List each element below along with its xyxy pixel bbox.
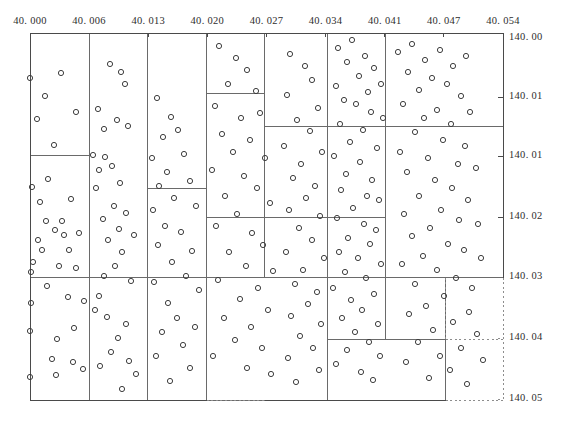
data-point	[337, 121, 342, 126]
data-point	[344, 59, 349, 64]
data-point	[34, 116, 39, 121]
data-point	[181, 151, 186, 156]
data-point	[219, 131, 224, 136]
data-point	[378, 261, 383, 266]
data-point	[267, 200, 272, 205]
data-point	[478, 255, 483, 260]
data-point	[335, 45, 340, 50]
partition-cell-17	[90, 278, 148, 401]
data-point	[355, 255, 360, 260]
x-tick-label-8: 40. 054	[486, 15, 520, 26]
data-point	[133, 371, 138, 376]
data-point	[300, 267, 305, 272]
partition-cell-19	[207, 278, 328, 401]
data-point	[169, 259, 174, 264]
data-point	[378, 81, 383, 86]
data-point	[37, 199, 42, 204]
data-point	[373, 227, 378, 232]
x-tick-label-6: 40. 041	[368, 15, 402, 26]
data-point	[66, 247, 71, 252]
data-point	[193, 203, 198, 208]
x-tick-label-4: 40. 027	[250, 15, 284, 26]
data-point	[347, 139, 352, 144]
data-point	[296, 225, 301, 230]
data-point	[319, 149, 324, 154]
data-point	[358, 369, 363, 374]
data-point	[30, 259, 35, 264]
data-point	[437, 353, 442, 358]
data-point	[56, 263, 61, 268]
data-point	[365, 89, 370, 94]
data-point	[268, 371, 273, 376]
data-point	[174, 315, 179, 320]
data-point	[65, 294, 70, 299]
data-point	[429, 75, 434, 80]
data-point	[90, 152, 95, 157]
x-tick-label-7: 40. 047	[427, 15, 461, 26]
partition-cell-9	[207, 94, 265, 218]
data-point	[118, 69, 123, 74]
data-point	[367, 241, 372, 246]
data-point	[458, 345, 463, 350]
data-point	[412, 281, 417, 286]
data-point	[480, 357, 485, 362]
data-point	[233, 55, 238, 60]
data-point	[93, 185, 98, 190]
data-point	[331, 153, 336, 158]
data-point	[96, 167, 101, 172]
data-point	[297, 333, 302, 338]
data-point	[254, 185, 259, 190]
data-point	[123, 210, 128, 215]
data-point	[434, 107, 439, 112]
data-point	[380, 115, 385, 120]
data-point	[81, 298, 86, 303]
data-point	[376, 197, 381, 202]
x-tick-label-1: 40. 006	[72, 15, 106, 26]
data-point	[243, 263, 248, 268]
data-point	[467, 109, 472, 114]
data-point	[309, 237, 314, 242]
data-points	[27, 37, 485, 391]
data-point	[374, 145, 379, 150]
data-point	[126, 358, 131, 363]
data-point	[244, 365, 249, 370]
data-point	[100, 216, 105, 221]
data-point	[427, 225, 432, 230]
data-point	[54, 336, 59, 341]
data-point	[309, 77, 314, 82]
y-axis-tick-labels: 140. 00140. 01140. 01140. 02140. 03140. …	[509, 31, 543, 403]
data-point	[101, 126, 106, 131]
data-point	[168, 114, 173, 119]
data-point	[432, 177, 437, 182]
data-point	[149, 155, 154, 160]
data-point	[42, 93, 47, 98]
data-point	[356, 73, 361, 78]
data-point	[51, 142, 56, 147]
data-point	[189, 248, 194, 253]
data-point	[434, 267, 439, 272]
data-point	[369, 177, 374, 182]
data-point	[92, 307, 97, 312]
data-point	[175, 127, 180, 132]
data-point	[35, 237, 40, 242]
data-point	[395, 49, 400, 54]
data-point	[375, 321, 380, 326]
data-point	[285, 355, 290, 360]
data-point	[307, 128, 312, 133]
data-point	[288, 313, 293, 318]
data-point	[244, 67, 249, 72]
partition-cell-6	[328, 34, 386, 127]
data-point	[70, 359, 75, 364]
data-point	[286, 207, 291, 212]
data-point	[399, 261, 404, 266]
data-point	[196, 287, 201, 292]
data-point	[342, 269, 347, 274]
data-point	[102, 154, 107, 159]
data-point	[119, 386, 124, 391]
data-point	[234, 211, 239, 216]
data-point	[39, 247, 44, 252]
data-point	[412, 129, 417, 134]
data-point	[73, 265, 78, 270]
data-point	[270, 268, 275, 273]
data-point	[151, 279, 156, 284]
